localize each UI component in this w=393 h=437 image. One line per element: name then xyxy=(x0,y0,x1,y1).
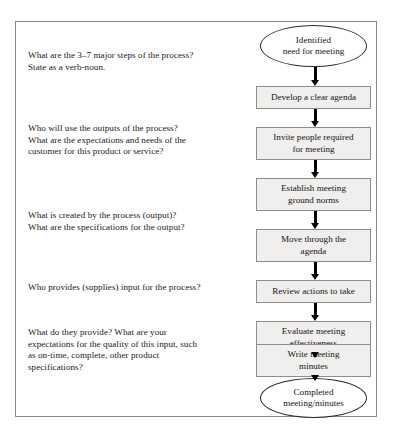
arrow-head-icon xyxy=(311,172,319,178)
node-label-line: Move through the xyxy=(281,234,346,245)
flow-arrow-arrow-1 xyxy=(311,67,320,86)
question-line: What are the 3–7 major steps of the proc… xyxy=(28,50,260,62)
question-line: expectations for the quality of this inp… xyxy=(28,339,260,351)
question-line: What do they provide? What are your xyxy=(28,327,260,339)
question-line: Who will use the outputs of the process? xyxy=(28,123,260,135)
arrow-head-icon xyxy=(311,315,319,321)
question-line: specifications? xyxy=(28,362,260,374)
arrow-head-icon xyxy=(311,274,319,280)
arrow-head-icon xyxy=(311,80,319,86)
flow-arrow-arrow-7 xyxy=(311,354,320,358)
arrow-shaft xyxy=(314,67,317,81)
figure-panel: What are the 3–7 major steps of the proc… xyxy=(15,21,377,417)
node-label-line: need for meeting xyxy=(283,46,345,57)
flow-arrow-arrow-2 xyxy=(311,109,320,127)
question-line: What are the specifications for the outp… xyxy=(28,222,260,234)
question-input-quality: What do they provide? What are yourexpec… xyxy=(28,327,260,373)
node-label-line: Review actions to take xyxy=(272,286,355,297)
node-label-line: agenda xyxy=(281,246,346,257)
node-label: Move through theagenda xyxy=(278,234,349,257)
flow-arrow-arrow-3 xyxy=(311,160,320,178)
node-label-line: Identified xyxy=(283,35,345,46)
flow-arrow-arrow-4 xyxy=(311,211,320,229)
questions-column: What are the 3–7 major steps of the proc… xyxy=(28,22,260,416)
node-identified-need[interactable]: Identifiedneed for meeting xyxy=(260,25,367,67)
node-label-line: Invite people required xyxy=(273,132,353,143)
node-label: Develop a clear agenda xyxy=(268,92,359,103)
node-label-line: Establish meeting xyxy=(281,183,346,194)
node-label: Invite people requiredfor meeting xyxy=(270,132,356,155)
node-label-line: Completed xyxy=(283,387,344,398)
node-label-line: ground norms xyxy=(281,195,346,206)
node-completed-minutes[interactable]: Completedmeeting/minutes xyxy=(260,378,367,418)
node-label: Completedmeeting/minutes xyxy=(280,387,347,410)
node-label-line: Develop a clear agenda xyxy=(271,92,356,103)
question-line: customer for this product or service? xyxy=(28,146,260,158)
question-output-specifications: What is created by the process (output)?… xyxy=(28,210,260,233)
question-major-steps: What are the 3–7 major steps of the proc… xyxy=(28,50,260,73)
node-write-minutes[interactable]: Write meetingminutes xyxy=(256,344,371,377)
node-label-line: minutes xyxy=(288,361,340,372)
question-outputs-customers: Who will use the outputs of the process?… xyxy=(28,123,260,158)
node-label-line: for meeting xyxy=(273,144,353,155)
question-line: State as a verb-noun. xyxy=(28,62,260,74)
node-label: Review actions to take xyxy=(269,286,358,297)
node-label-line: Evaluate meeting xyxy=(282,326,345,337)
question-line: Who provides (supplies) input for the pr… xyxy=(28,282,260,294)
node-move-through-agenda[interactable]: Move through theagenda xyxy=(256,229,371,262)
flow-arrow-arrow-5 xyxy=(311,262,320,280)
node-develop-agenda[interactable]: Develop a clear agenda xyxy=(256,86,371,109)
question-suppliers: Who provides (supplies) input for the pr… xyxy=(28,282,260,294)
node-label: Identifiedneed for meeting xyxy=(280,35,348,58)
arrow-head-icon xyxy=(311,223,319,229)
question-line: as on-time, complete, other product xyxy=(28,350,260,362)
flow-arrow-arrow-8 xyxy=(311,377,320,381)
question-line: What is created by the process (output)? xyxy=(28,210,260,222)
flow-arrow-arrow-6 xyxy=(311,303,320,321)
arrow-head-icon xyxy=(311,121,319,127)
node-label: Establish meetingground norms xyxy=(278,183,349,206)
node-establish-ground-norms[interactable]: Establish meetingground norms xyxy=(256,178,371,211)
node-invite-people[interactable]: Invite people requiredfor meeting xyxy=(256,127,371,160)
arrow-head-icon xyxy=(311,375,319,381)
question-line: What are the expectations and needs of t… xyxy=(28,135,260,147)
node-review-actions[interactable]: Review actions to take xyxy=(256,280,371,303)
flowchart-column: Identifiedneed for meetingDevelop a clea… xyxy=(254,22,378,416)
arrow-head-icon xyxy=(311,352,319,358)
node-label-line: meeting/minutes xyxy=(283,398,344,409)
